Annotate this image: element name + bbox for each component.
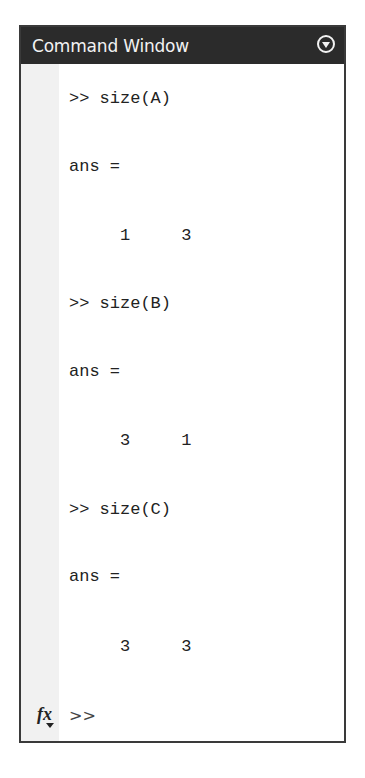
command-prompt-input[interactable]: >> <box>69 706 96 725</box>
command-history[interactable]: >> size(A) ans = 1 3 >> size(B) ans = 3 … <box>69 64 344 741</box>
caret-down-icon <box>46 723 54 728</box>
output-values: 3 3 <box>69 637 191 657</box>
command-line: >> size(B) <box>69 294 171 314</box>
output-label: ans = <box>69 362 120 382</box>
command-line: >> size(C) <box>69 500 171 520</box>
window-title: Command Window <box>32 36 189 56</box>
output-values: 3 1 <box>69 431 191 451</box>
triangle-down-icon <box>322 42 330 48</box>
command-window-panel: Command Window >> size(A) ans = 1 3 >> s… <box>19 25 346 743</box>
output-label: ans = <box>69 157 120 177</box>
prompt-symbol: >> <box>69 706 96 725</box>
left-gutter <box>21 64 59 741</box>
circle-chevron-down-icon[interactable] <box>317 35 335 53</box>
command-line: >> size(A) <box>69 89 171 109</box>
fx-icon: fx <box>37 704 52 724</box>
command-window-titlebar: Command Window <box>21 27 344 64</box>
output-label: ans = <box>69 567 120 587</box>
function-browser-button[interactable]: fx <box>37 704 52 725</box>
output-values: 1 3 <box>69 226 191 246</box>
